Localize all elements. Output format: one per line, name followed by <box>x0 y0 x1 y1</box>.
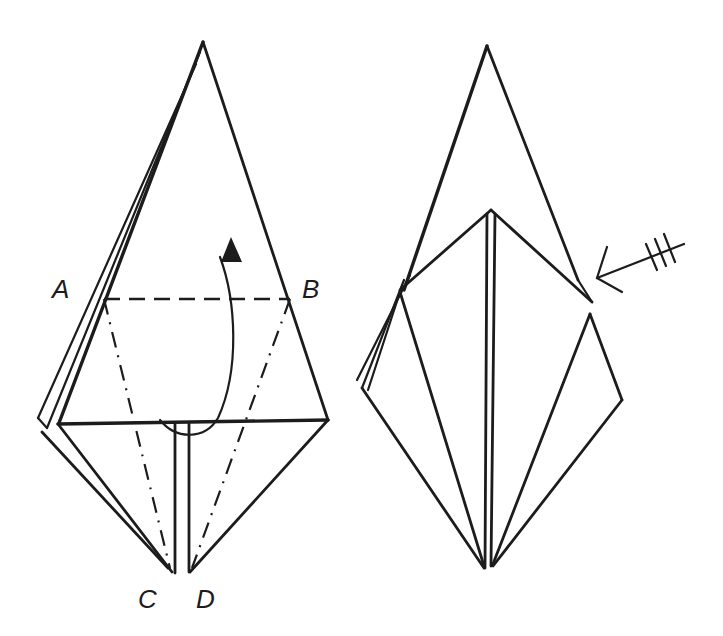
petal-lower-left-edge <box>400 292 484 566</box>
right-top-edge <box>487 46 578 280</box>
point-label-b: B <box>302 276 319 302</box>
center-line-left <box>485 214 487 568</box>
point-label-c: C <box>138 586 157 612</box>
outer-lower-left-edge <box>362 388 484 568</box>
outer-lower-right-edge <box>493 400 622 566</box>
left-corner-join <box>38 418 47 428</box>
horizontal-base-edge <box>58 420 328 424</box>
outer-right-upper-edge <box>590 314 622 400</box>
left-layer-edge-3 <box>368 292 400 390</box>
petal-left-edge <box>400 210 491 290</box>
fold-up-arrow-head-icon <box>221 237 242 262</box>
petal-lower-right-edge <box>493 314 590 564</box>
petal-right-edge <box>491 210 592 302</box>
step-right-figure <box>357 46 684 568</box>
left-upper-edge-back <box>38 64 196 418</box>
point-label-d: D <box>196 586 215 612</box>
repeat-behind-arrow-icon <box>597 234 684 292</box>
step-left-figure <box>38 42 328 573</box>
fold-up-arrow-path <box>160 257 233 435</box>
left-top-edge <box>404 46 487 290</box>
mountain-fold-line-bd <box>192 299 290 568</box>
left-layer-edge-1 <box>357 275 410 380</box>
lower-left-edge-back <box>42 432 168 568</box>
lower-right-edge <box>190 420 328 572</box>
lower-left-edge-front <box>58 424 172 572</box>
point-label-a: A <box>52 276 69 302</box>
repeat-tick-1 <box>646 244 657 270</box>
center-line-right <box>491 214 495 566</box>
origami-diagram <box>0 0 723 636</box>
